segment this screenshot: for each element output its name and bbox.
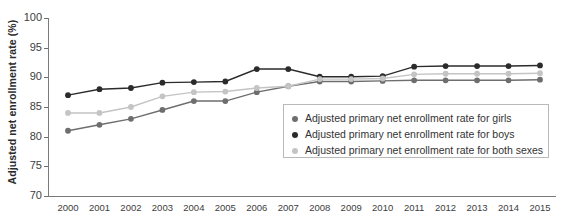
x-tick-label: 2003	[146, 203, 178, 213]
x-tick-label: 2006	[241, 203, 273, 213]
data-point	[506, 63, 512, 69]
data-point	[411, 71, 417, 77]
data-point	[191, 89, 197, 95]
legend-label: Adjusted primary net enrollment rate for…	[305, 145, 543, 156]
legend-label: Adjusted primary net enrollment rate for…	[305, 113, 512, 124]
chart-figure: Adjusted net enrollment rate (%) 7075808…	[0, 0, 561, 222]
x-tick-label: 2008	[304, 203, 336, 213]
data-point	[128, 104, 134, 110]
data-point	[160, 80, 166, 86]
data-point	[191, 98, 197, 104]
data-point	[222, 79, 228, 85]
data-point	[65, 110, 71, 116]
data-point	[222, 98, 228, 104]
x-tick-label: 2014	[493, 203, 525, 213]
data-point	[128, 116, 134, 122]
legend-item[interactable]: Adjusted primary net enrollment rate for…	[292, 111, 540, 126]
data-point	[254, 66, 260, 72]
data-point	[537, 63, 543, 69]
data-point	[443, 77, 449, 83]
data-point	[474, 71, 480, 77]
data-point	[128, 85, 134, 91]
data-point	[537, 70, 543, 76]
data-point	[317, 76, 323, 82]
data-point	[474, 77, 480, 83]
legend-label: Adjusted primary net enrollment rate for…	[305, 129, 515, 140]
legend-marker-icon	[292, 132, 298, 138]
data-point	[191, 79, 197, 85]
x-tick-label: 2009	[335, 203, 367, 213]
data-point	[285, 66, 291, 72]
data-point	[506, 77, 512, 83]
data-point	[537, 77, 543, 83]
x-tick-label: 2011	[398, 203, 430, 213]
x-tick-label: 2012	[430, 203, 462, 213]
data-point	[97, 122, 103, 128]
legend-marker-icon	[292, 116, 298, 122]
x-tick-label: 2002	[115, 203, 147, 213]
data-point	[97, 110, 103, 116]
data-point	[506, 71, 512, 77]
data-point	[285, 83, 291, 89]
data-point	[160, 107, 166, 113]
data-point	[222, 89, 228, 95]
data-point	[411, 77, 417, 83]
data-point	[160, 93, 166, 99]
x-tick-label: 2004	[178, 203, 210, 213]
data-point	[348, 76, 354, 82]
chart-legend: Adjusted primary net enrollment rate for…	[283, 104, 549, 158]
x-tick-label: 2001	[83, 203, 115, 213]
x-tick-label: 2015	[524, 203, 556, 213]
data-point	[411, 64, 417, 70]
data-point	[443, 63, 449, 69]
x-tick-label: 2007	[272, 203, 304, 213]
data-point	[474, 63, 480, 69]
data-point	[65, 92, 71, 98]
data-point	[254, 85, 260, 91]
x-tick-label: 2013	[461, 203, 493, 213]
legend-marker-icon	[292, 148, 298, 154]
x-tick-label: 2000	[52, 203, 84, 213]
data-point	[380, 76, 386, 82]
legend-item[interactable]: Adjusted primary net enrollment rate for…	[292, 143, 540, 158]
x-tick-label: 2010	[367, 203, 399, 213]
data-point	[443, 71, 449, 77]
x-tick-label: 2005	[209, 203, 241, 213]
legend-item[interactable]: Adjusted primary net enrollment rate for…	[292, 127, 540, 142]
data-point	[97, 86, 103, 92]
data-point	[65, 128, 71, 134]
